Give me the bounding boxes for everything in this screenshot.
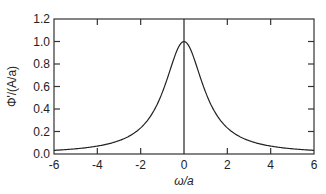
x-tick-label: 6 (311, 158, 318, 172)
y-tick-label: 0.8 (33, 57, 50, 71)
x-tick-label: -2 (135, 158, 146, 172)
x-axis-label: ω/a (174, 174, 194, 188)
y-tick-label: 1.0 (33, 35, 50, 49)
y-tick-label: 0.0 (33, 147, 50, 161)
y-tick-label: 0.6 (33, 80, 50, 94)
y-tick-labels: 0.00.20.40.60.81.01.2 (33, 12, 50, 161)
x-tick-label: 2 (224, 158, 231, 172)
y-tick-label: 0.4 (33, 102, 50, 116)
x-tick-label: -4 (92, 158, 103, 172)
y-axis-label: Φ'/(A/a) (5, 66, 19, 107)
x-tick-label: 0 (181, 158, 188, 172)
x-tick-label: -6 (49, 158, 60, 172)
chart: -6-4-20246 0.00.20.40.60.81.01.2 ω/a Φ'/… (0, 0, 326, 194)
y-tick-label: 0.2 (33, 125, 50, 139)
x-tick-labels: -6-4-20246 (49, 158, 318, 172)
y-tick-label: 1.2 (33, 12, 50, 26)
x-tick-label: 4 (267, 158, 274, 172)
